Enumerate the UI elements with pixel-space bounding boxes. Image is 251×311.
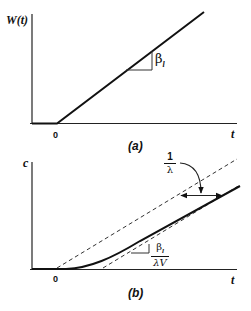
slope-denominator: λV (151, 256, 169, 268)
beta-symbol: β (155, 51, 163, 66)
fraction-numerator: 1 (164, 152, 176, 163)
panel-b-curve (32, 186, 240, 269)
panel-a-x-label: t (231, 128, 234, 140)
upper-dashed-asymptote (57, 159, 237, 268)
panel-b-axes (30, 162, 237, 270)
panel-b-offset-arrow (180, 163, 222, 196)
panel-b-x-label: t (231, 274, 234, 286)
panel-a-curve (32, 12, 204, 124)
caption-text: (b) (128, 286, 143, 300)
panel-a-axes (30, 14, 237, 124)
panel-a-slope-label: βl (155, 52, 165, 69)
panel-b-y-label: c (23, 157, 28, 169)
panel-a-y-label: W(t) (6, 14, 28, 26)
offset-fraction-label: 1 λ (164, 152, 176, 175)
panel-a-caption: (a) (128, 140, 143, 152)
panel-b-caption: (b) (128, 287, 143, 299)
slope-subscript: l (163, 60, 165, 69)
panel-b-slope-label: βl λV (151, 242, 169, 268)
slope-numerator: βl (151, 242, 169, 256)
panel-a-origin-label: 0 (53, 131, 58, 140)
curved-pointer-arrow (180, 163, 201, 193)
slope-subscript: l (162, 247, 164, 255)
panel-b-origin-label: 0 (53, 275, 58, 284)
caption-text: (a) (128, 139, 143, 153)
fraction-denominator: λ (164, 163, 176, 175)
diagram-canvas (0, 0, 251, 311)
